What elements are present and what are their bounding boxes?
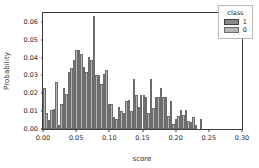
x-axis-minor-tick (102, 129, 103, 130)
bars-layer (43, 13, 242, 129)
x-axis-tick-label: 0.30 (235, 134, 249, 142)
x-axis-minor-tick (89, 129, 90, 130)
y-axis-tick-mark (41, 111, 44, 112)
y-axis-tick-label: 0.00 (24, 125, 38, 133)
x-axis-tick-label: 0.15 (135, 134, 149, 142)
y-axis-tick-mark (41, 57, 44, 58)
x-axis-minor-tick (62, 129, 63, 130)
legend-swatch-class-0 (224, 27, 239, 33)
x-axis-tick-mark (208, 129, 209, 132)
histogram-figure: Probability 0.000.010.020.030.040.050.06… (0, 0, 259, 168)
x-axis-minor-tick (155, 129, 156, 130)
x-axis-minor-tick (82, 129, 83, 130)
x-axis-tick-mark (242, 129, 243, 132)
y-axis-tick-label: 0.03 (24, 71, 38, 79)
x-axis-tick-mark (175, 129, 176, 132)
x-axis-tick-mark (142, 129, 143, 132)
x-axis-minor-tick (202, 129, 203, 130)
y-axis-tick-label: 0.02 (24, 89, 38, 97)
y-axis-tick-label: 0.04 (24, 54, 38, 62)
x-axis-minor-tick (129, 129, 130, 130)
x-axis-label: score (133, 155, 152, 163)
x-axis-minor-tick (228, 129, 229, 130)
x-axis-tick-mark (76, 129, 77, 132)
legend-item-1[interactable]: 1 (224, 19, 247, 26)
histogram-bar (55, 82, 57, 129)
y-axis-tick-label: 0.05 (24, 36, 38, 44)
y-axis-tick-mark (41, 21, 44, 22)
x-axis-tick-label: 0.25 (202, 134, 216, 142)
histogram-bar (200, 119, 202, 129)
y-axis-label: Probability (3, 52, 11, 90)
x-axis-tick-label: 0.00 (36, 134, 50, 142)
legend-title: class (224, 9, 247, 17)
x-axis-minor-tick (69, 129, 70, 130)
x-axis-minor-tick (215, 129, 216, 130)
legend: class 1 0 (218, 5, 253, 39)
legend-item-0[interactable]: 0 (224, 27, 247, 34)
x-axis-minor-tick (122, 129, 123, 130)
x-axis-minor-tick (49, 129, 50, 130)
y-axis-tick-label: 0.01 (24, 107, 38, 115)
x-axis-minor-tick (135, 129, 136, 130)
x-axis-minor-tick (115, 129, 116, 130)
y-axis-tick-mark (41, 39, 44, 40)
legend-label-class-0: 0 (243, 27, 247, 34)
x-axis-tick-label: 0.05 (69, 134, 83, 142)
x-axis-minor-tick (235, 129, 236, 130)
legend-label-class-1: 1 (243, 19, 247, 26)
x-axis-minor-tick (56, 129, 57, 130)
plot-area: 0.000.010.020.030.040.050.060.000.050.10… (42, 12, 243, 130)
x-axis-minor-tick (182, 129, 183, 130)
x-axis-minor-tick (96, 129, 97, 130)
legend-swatch-class-1 (224, 19, 239, 25)
x-axis-tick-mark (43, 129, 44, 132)
y-axis-tick-mark (41, 75, 44, 76)
x-axis-minor-tick (162, 129, 163, 130)
x-axis-minor-tick (188, 129, 189, 130)
x-axis-minor-tick (169, 129, 170, 130)
x-axis-tick-label: 0.20 (168, 134, 182, 142)
x-axis-tick-label: 0.10 (102, 134, 116, 142)
y-axis-tick-mark (41, 93, 44, 94)
x-axis-minor-tick (149, 129, 150, 130)
x-axis-minor-tick (222, 129, 223, 130)
y-axis-tick-label: 0.06 (24, 18, 38, 26)
x-axis-minor-tick (195, 129, 196, 130)
x-axis-tick-mark (109, 129, 110, 132)
